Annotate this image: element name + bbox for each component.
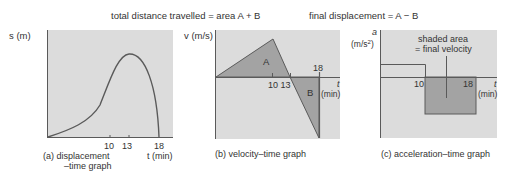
panel-c-tick-10: 10 (414, 79, 424, 89)
panel-b-tick-18: 18 (313, 63, 323, 73)
panel-b-y-label: v (m/s) (184, 30, 213, 41)
panel-c-caption: (c) acceleration–time graph (381, 149, 490, 159)
panel-b-x-label-unit: (min) (321, 89, 341, 99)
annotation-line2: = final velocity (415, 44, 472, 54)
panel-a-tick-10: 10 (104, 141, 114, 151)
panel-a-background (47, 30, 173, 138)
graphs-figure: s (m) 10 13 18 t (min) (a) displacement … (0, 0, 516, 173)
area-a-label: A (263, 56, 270, 67)
panel-b-caption: (b) velocity–time graph (215, 149, 306, 159)
panel-a-tick-18: 18 (154, 141, 164, 151)
panel-a-x-label: t (min) (147, 151, 173, 161)
panel-c-y-label: a (372, 27, 377, 37)
area-b-label: B (307, 87, 313, 98)
annotation-line1: shaded area (418, 34, 468, 44)
acceleration-time-graph: a (m/s2) shaded area = final velocity 10… (351, 27, 498, 159)
panel-c-y-unit: (m/s2) (351, 39, 374, 49)
panel-c-x-label-unit: (min) (478, 89, 498, 99)
panel-c-tick-18: 18 (463, 79, 473, 89)
panel-a-y-label: s (m) (9, 30, 31, 41)
velocity-time-graph: v (m/s) A B 10 13 18 t (min) (b) velocit… (184, 30, 341, 159)
displacement-time-graph: s (m) 10 13 18 t (min) (a) displacement … (9, 30, 173, 171)
panel-a-caption-line2: –time graph (64, 161, 112, 171)
panel-a-tick-13: 13 (122, 141, 132, 151)
panel-a-caption-line1: (a) displacement (43, 151, 110, 161)
panel-b-tick-10-13: 10 13 (268, 80, 291, 90)
